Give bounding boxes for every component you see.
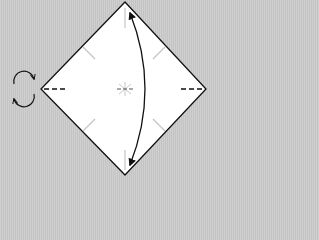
turn-over-icon <box>14 71 35 107</box>
origami-diagram <box>0 0 212 179</box>
